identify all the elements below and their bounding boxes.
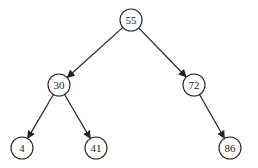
node-label: 41 (91, 142, 102, 154)
tree-node-86: 86 (219, 137, 241, 159)
node-label: 86 (225, 142, 237, 154)
node-label: 4 (19, 142, 25, 154)
tree-node-4: 4 (11, 137, 33, 159)
edge-30-to-41 (65, 94, 91, 138)
edge-72-to-86 (199, 95, 224, 138)
tree-node-41: 41 (85, 137, 107, 159)
tree-node-30: 30 (48, 74, 70, 96)
edge-55-to-30 (68, 27, 123, 77)
node-label: 30 (54, 79, 66, 91)
nodes-group: 55307244186 (11, 9, 241, 159)
tree-node-72: 72 (183, 74, 205, 96)
node-label: 55 (126, 14, 138, 26)
tree-node-55: 55 (120, 9, 142, 31)
tree-svg: 55307244186 (0, 0, 258, 168)
node-label: 72 (189, 79, 200, 91)
edge-30-to-4 (28, 94, 54, 138)
tree-diagram: 55307244186 (0, 0, 258, 168)
edge-55-to-72 (139, 28, 186, 77)
